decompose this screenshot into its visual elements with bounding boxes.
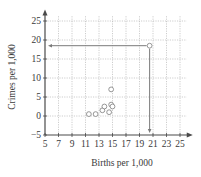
data-point xyxy=(110,104,115,109)
grid xyxy=(45,15,187,135)
y-tick-label: 0 xyxy=(36,111,41,121)
data-points xyxy=(86,43,152,116)
x-tick-label: 21 xyxy=(148,139,158,149)
data-point xyxy=(109,87,114,92)
x-tick-label: 11 xyxy=(81,139,90,149)
x-tick-label: 25 xyxy=(175,139,185,149)
y-tick-label: 10 xyxy=(32,73,42,83)
y-tick-label: 15 xyxy=(32,54,42,64)
axes xyxy=(43,9,193,137)
y-tick-label: −5 xyxy=(31,130,41,140)
guide-arrows xyxy=(48,44,151,133)
x-tick-label: 9 xyxy=(70,139,75,149)
x-tick-label: 23 xyxy=(162,139,172,149)
data-point xyxy=(93,112,98,117)
scatter-chart: 5791113151719212325−50510152025 Births p… xyxy=(0,0,201,177)
tick-labels: 5791113151719212325−50510152025 xyxy=(31,16,185,149)
x-tick-label: 15 xyxy=(108,139,118,149)
data-point xyxy=(107,110,112,115)
data-point xyxy=(86,112,91,117)
x-tick-label: 5 xyxy=(43,139,48,149)
y-tick-label: 25 xyxy=(32,16,42,26)
data-point xyxy=(147,43,152,48)
y-axis-label: Crimes per 1,000 xyxy=(7,44,17,110)
x-tick-label: 13 xyxy=(94,139,104,149)
y-tick-label: 20 xyxy=(32,35,42,45)
y-tick-label: 5 xyxy=(36,92,41,102)
x-tick-label: 19 xyxy=(135,139,145,149)
data-point xyxy=(102,104,107,109)
x-tick-label: 7 xyxy=(56,139,61,149)
x-tick-label: 17 xyxy=(121,139,131,149)
x-axis-label: Births per 1,000 xyxy=(91,158,153,168)
